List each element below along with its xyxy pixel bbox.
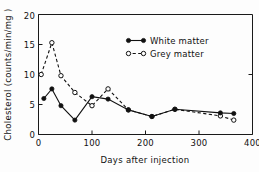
x-tick-label-300: 300 — [191, 138, 208, 148]
chart-figure: 0 5 10 15 20 0 100 200 300 400 Days afte… — [0, 0, 259, 172]
grey-matter-point — [39, 72, 43, 76]
y-tick-label-10: 10 — [24, 70, 35, 80]
series-white-matter — [42, 87, 236, 122]
grey-matter-line — [41, 43, 234, 120]
white-matter-point — [173, 107, 177, 111]
legend-marker-filled-circle — [126, 38, 130, 42]
grey-matter-point — [90, 104, 94, 108]
grey-matter-point — [73, 90, 77, 94]
white-matter-line — [44, 89, 234, 120]
y-tick-label-0: 0 — [29, 130, 35, 140]
chart-legend: White matter Grey matter — [126, 36, 209, 59]
white-matter-point — [106, 97, 110, 101]
grey-matter-point — [50, 41, 54, 45]
white-matter-point — [90, 95, 94, 99]
legend-marker-filled-circle — [141, 38, 145, 42]
x-tick-label-200: 200 — [137, 138, 154, 148]
white-matter-point — [73, 118, 77, 122]
grey-matter-point — [106, 87, 110, 91]
white-matter-point — [126, 108, 130, 112]
white-matter-point — [218, 111, 222, 115]
series-grey-matter — [39, 41, 236, 123]
white-matter-point — [150, 114, 154, 118]
grey-matter-point — [232, 118, 236, 122]
grey-matter-point — [59, 74, 63, 78]
y-tick-label-5: 5 — [29, 100, 35, 110]
legend-label-white-matter: White matter — [150, 36, 209, 46]
white-matter-point — [42, 96, 46, 100]
cholesterol-line-chart: 0 5 10 15 20 0 100 200 300 400 Days afte… — [0, 0, 259, 172]
x-axis-title: Days after injection — [100, 155, 189, 165]
white-matter-point — [59, 104, 63, 108]
x-tick-label-100: 100 — [84, 138, 101, 148]
white-matter-point — [232, 111, 236, 115]
legend-label-grey-matter: Grey matter — [150, 49, 204, 59]
legend-marker-open-circle — [141, 51, 145, 55]
legend-marker-open-circle — [126, 51, 130, 55]
y-tick-label-20: 20 — [24, 11, 35, 21]
x-tick-label-400: 400 — [244, 138, 259, 148]
y-tick-label-15: 15 — [24, 40, 35, 50]
white-matter-point — [50, 87, 54, 91]
legend-entry-grey-matter: Grey matter — [126, 49, 204, 59]
x-tick-label-0: 0 — [36, 138, 42, 148]
legend-entry-white-matter: White matter — [126, 36, 209, 46]
y-axis-title: Cholesterol (counts/min/mg ) — [3, 8, 13, 140]
